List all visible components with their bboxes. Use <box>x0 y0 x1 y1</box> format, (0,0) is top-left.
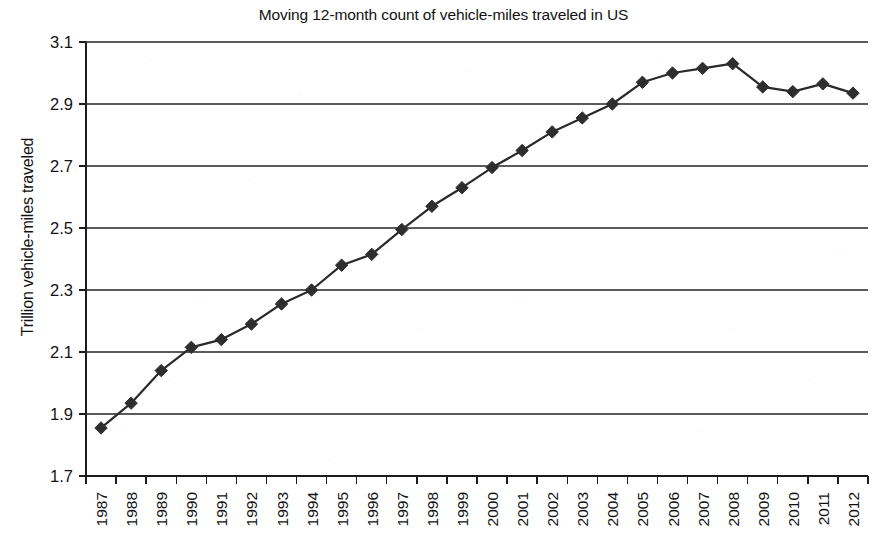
data-point-marker <box>546 126 558 138</box>
data-point-marker <box>486 161 498 173</box>
scan-noise <box>119 59 841 461</box>
y-tick-label: 1.9 <box>50 405 73 423</box>
x-tick-label: 2000 <box>484 492 501 527</box>
x-tick-label: 1988 <box>123 492 140 526</box>
scan-speck <box>729 329 731 331</box>
y-tick-label: 2.7 <box>50 157 73 175</box>
y-tick-label: 1.7 <box>50 467 73 485</box>
scan-speck <box>769 89 771 91</box>
x-tick-label: 1994 <box>304 492 321 527</box>
y-tick-label: 2.3 <box>50 281 73 299</box>
x-tick-labels: 1987198819891990199119921993199419951996… <box>93 492 862 527</box>
y-tick-label: 2.9 <box>50 95 73 113</box>
data-point-marker <box>787 85 799 97</box>
scan-speck <box>599 199 601 201</box>
x-tick-label: 2001 <box>514 492 531 526</box>
scan-speck <box>299 94 301 96</box>
scan-speck <box>419 329 421 331</box>
x-tick-label: 1991 <box>213 492 230 526</box>
data-point-marker <box>245 318 257 330</box>
scan-speck <box>249 179 251 181</box>
scan-speck <box>519 299 521 301</box>
plot-area: 3.12.92.72.52.32.11.91.7 198719881989199… <box>0 0 887 548</box>
x-tick-label: 1993 <box>274 492 291 526</box>
y-tick-labels: 3.12.92.72.52.32.11.91.7 <box>50 33 73 485</box>
scan-speck <box>329 459 331 461</box>
x-tick-label: 2005 <box>634 492 651 526</box>
x-tick-label: 1996 <box>364 492 381 526</box>
data-point-marker <box>215 333 227 345</box>
scan-speck <box>119 429 121 431</box>
x-tick-label: 1990 <box>183 492 200 527</box>
x-tick-label: 2008 <box>725 492 742 526</box>
x-tick-label: 2006 <box>665 492 682 526</box>
x-tick-label: 2012 <box>845 492 862 526</box>
scan-speck <box>639 119 641 121</box>
data-point-marker <box>516 144 528 156</box>
x-tick-label: 2010 <box>785 492 802 527</box>
chart-figure: Moving 12-month count of vehicle-miles t… <box>0 0 887 548</box>
x-tick-label: 2007 <box>695 492 712 526</box>
x-tick-label: 1997 <box>394 492 411 526</box>
scan-speck <box>199 299 201 301</box>
y-tick-label: 2.5 <box>50 219 73 237</box>
x-tick-label: 2003 <box>574 492 591 526</box>
gridlines <box>86 42 868 476</box>
data-point-marker <box>456 182 468 194</box>
x-tick-label: 1999 <box>454 492 471 526</box>
x-tick-label: 2011 <box>815 492 832 525</box>
x-tick-label: 2002 <box>544 492 561 526</box>
y-tick-label: 3.1 <box>50 33 73 51</box>
data-point-marker <box>275 298 287 310</box>
scan-speck <box>699 429 701 431</box>
scan-speck <box>469 69 471 71</box>
x-tick-label: 1995 <box>334 492 351 526</box>
scan-speck <box>389 249 391 251</box>
x-tick-label: 1992 <box>243 492 260 526</box>
data-point-marker <box>696 62 708 74</box>
x-tick-label: 1987 <box>93 492 110 526</box>
x-tick-marks <box>86 476 868 484</box>
axis-lines <box>79 42 868 476</box>
scan-speck <box>559 399 561 401</box>
data-point-marker <box>817 78 829 90</box>
x-tick-label: 2004 <box>604 492 621 527</box>
x-tick-label: 1998 <box>424 492 441 526</box>
data-point-marker <box>576 112 588 124</box>
data-point-marker <box>847 87 859 99</box>
scan-speck <box>659 59 661 61</box>
scan-speck <box>149 59 151 61</box>
x-tick-label: 2009 <box>755 492 772 526</box>
scan-speck <box>809 379 811 381</box>
scan-speck <box>839 249 841 251</box>
scan-speck <box>169 379 171 381</box>
series-line <box>101 64 853 428</box>
y-tick-label: 2.1 <box>50 343 73 361</box>
data-point-marker <box>666 67 678 79</box>
x-tick-label: 1989 <box>153 492 170 526</box>
data-series <box>95 58 859 435</box>
